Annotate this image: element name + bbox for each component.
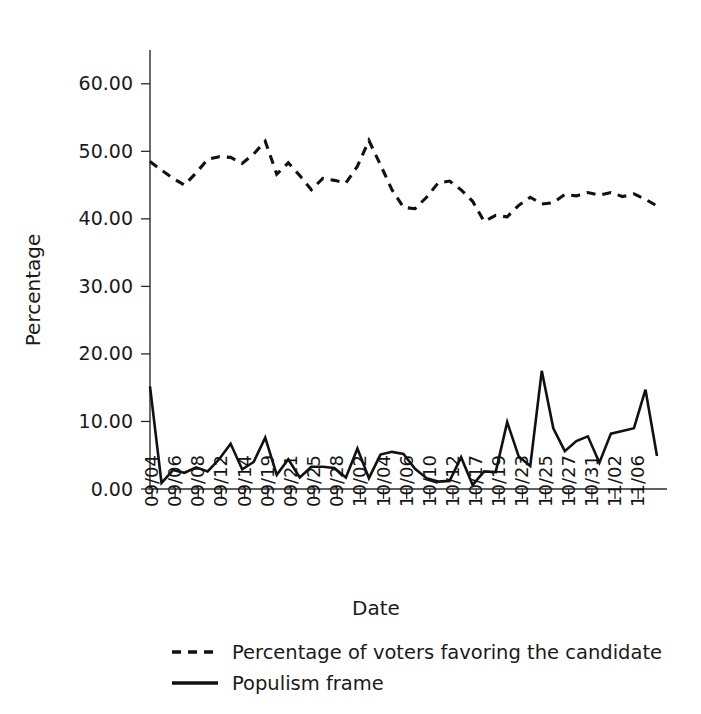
y-tick-label: 0.00 (91, 478, 133, 500)
y-tick-label: 20.00 (79, 342, 133, 364)
y-tick-marks (141, 84, 150, 489)
x-tick-label: 09/19 (257, 455, 278, 507)
x-axis-title: Date (352, 596, 400, 620)
x-tick-label: 09/06 (164, 455, 185, 507)
x-tick-label: 10/25 (535, 455, 556, 507)
y-tick-label: 10.00 (79, 410, 133, 432)
y-tick-label: 30.00 (79, 275, 133, 297)
legend-label-populism-frame: Populism frame (232, 672, 384, 695)
x-tick-label: 09/28 (326, 455, 347, 507)
y-tick-label: 40.00 (79, 207, 133, 229)
x-tick-label: 09/25 (303, 455, 324, 507)
x-tick-label: 10/06 (396, 455, 417, 507)
chart-figure: Percentage 0.0010.0020.0030.0040.0050.00… (0, 0, 701, 714)
x-tick-label: 10/23 (511, 455, 532, 507)
x-tick-label: 11/02 (604, 455, 625, 507)
y-axis-title: Percentage (21, 234, 45, 347)
y-tick-label: 50.00 (79, 140, 133, 162)
y-tick-labels: 0.0010.0020.0030.0040.0050.0060.00 (79, 72, 133, 499)
line-chart: Percentage 0.0010.0020.0030.0040.0050.00… (0, 0, 701, 714)
x-tick-label: 10/27 (558, 455, 579, 507)
x-tick-label: 09/12 (210, 455, 231, 507)
series-line-percentage-of-voters (150, 141, 657, 222)
legend-label-percentage-of-voters: Percentage of voters favoring the candid… (232, 641, 662, 664)
x-tick-label: 09/08 (187, 455, 208, 507)
y-tick-label: 60.00 (79, 72, 133, 94)
chart-legend: Percentage of voters favoring the candid… (172, 641, 662, 695)
x-tick-label: 11/06 (627, 455, 648, 507)
